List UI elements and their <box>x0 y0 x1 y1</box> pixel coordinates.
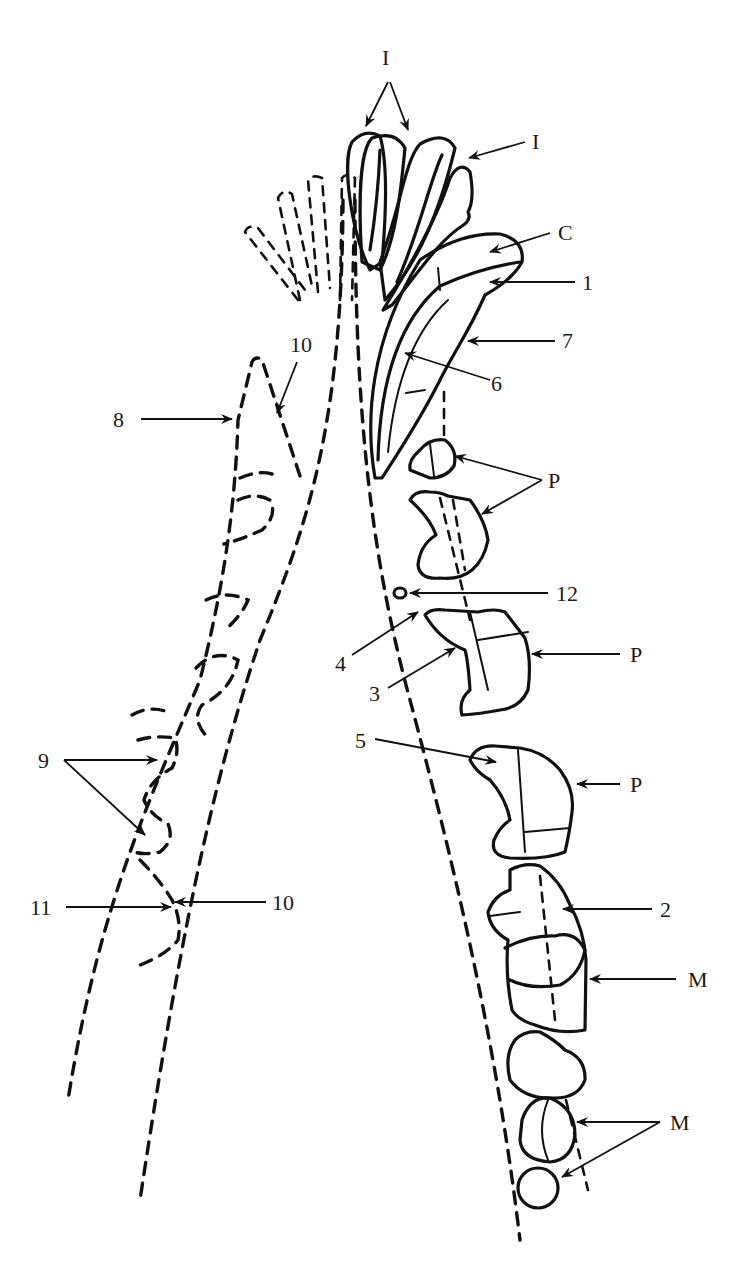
label-premolars-upper: P <box>548 468 560 493</box>
label-7: 7 <box>562 328 573 353</box>
label-9: 9 <box>38 748 49 773</box>
premolars <box>394 440 573 859</box>
label-5: 5 <box>355 728 366 753</box>
label-12: 12 <box>556 581 578 606</box>
label-10-top: 10 <box>290 332 312 357</box>
label-3: 3 <box>369 681 380 706</box>
label-incisor-third: I <box>532 129 539 154</box>
label-1: 1 <box>582 270 593 295</box>
incisors <box>348 133 472 310</box>
label-11: 11 <box>30 895 51 920</box>
label-molar-1: M <box>688 967 708 992</box>
label-canine: C <box>558 220 573 245</box>
label-molars-2-3: M <box>670 1110 690 1135</box>
label-premolar-3: P <box>630 642 642 667</box>
label-2: 2 <box>660 897 671 922</box>
label-4: 4 <box>335 651 346 676</box>
labels: I I C 1 7 6 P 12 4 3 P 5 P 2 M M 8 10 9 … <box>30 45 708 1135</box>
label-10-bottom: 10 <box>272 890 294 915</box>
label-incisors: I <box>382 45 389 70</box>
label-premolar-4: P <box>630 772 642 797</box>
label-8: 8 <box>113 407 124 432</box>
label-6: 6 <box>491 371 502 396</box>
dental-arcade-diagram: I I C 1 7 6 P 12 4 3 P 5 P 2 M M 8 10 9 … <box>0 0 753 1269</box>
